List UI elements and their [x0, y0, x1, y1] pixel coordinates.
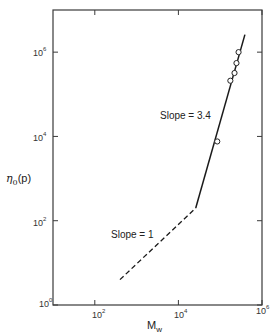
slope-1-dashed-line	[120, 208, 196, 280]
data-point-marker	[232, 70, 237, 75]
axes-frame	[53, 10, 262, 305]
data-point-marker	[236, 50, 241, 55]
x-axis-label: Mw	[147, 319, 162, 334]
data-series	[120, 35, 245, 280]
y-tick-label-1e0: 100	[39, 298, 52, 309]
slope-1-annotation: Slope = 1	[111, 229, 154, 240]
data-point-marker	[215, 139, 220, 144]
y-axis-label: η0(p)	[6, 172, 31, 187]
tick-marks	[53, 10, 262, 305]
x-tick-label-1e2: 102	[92, 309, 105, 320]
y-tick-label-1e4: 104	[33, 132, 46, 143]
x-tick-label-1e4: 104	[174, 309, 187, 320]
data-point-marker	[228, 78, 233, 83]
y-tick-label-1e6: 106	[33, 47, 46, 58]
slope-3-4-annotation: Slope = 3.4	[160, 110, 211, 121]
x-tick-label-1e6: 106	[256, 305, 269, 316]
data-point-marker	[234, 60, 239, 65]
y-tick-label-1e2: 102	[33, 217, 46, 228]
